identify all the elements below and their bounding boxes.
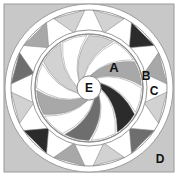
pinwheel-svg: ABCDE	[0, 0, 178, 190]
pinwheel-figure: ABCDE	[0, 0, 178, 190]
label-b: B	[142, 69, 151, 83]
label-d: D	[156, 152, 165, 166]
label-c: C	[150, 84, 159, 98]
label-a: A	[109, 60, 119, 75]
figure-canvas: ABCDE	[0, 0, 178, 190]
label-e: E	[85, 81, 93, 95]
